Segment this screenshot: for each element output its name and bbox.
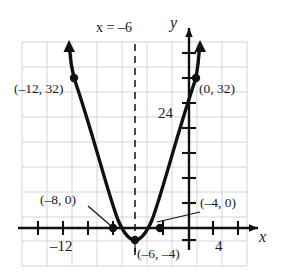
x-axis-label: x [259, 228, 266, 246]
x-tick-label-minus12: –12 [50, 238, 73, 255]
x-axis-arrow-icon [249, 224, 258, 231]
y-axis-arrow-icon [185, 28, 192, 37]
point-label-vertex: (–6, –4) [137, 246, 180, 262]
coordinate-plane-svg [0, 0, 282, 275]
x-tick-label-4: 4 [215, 238, 223, 255]
point-vertex [131, 236, 139, 244]
point-label-minus12-32: (–12, 32) [14, 81, 64, 97]
y-axis-label: y [170, 14, 177, 32]
graph-figure: x = –6 y x (–12, 32) (0, 32) (–8, 0) (–4… [0, 0, 282, 275]
point-minus4-0 [156, 224, 164, 232]
point-minus8-0 [109, 224, 117, 232]
point-label-minus8-0: (–8, 0) [40, 192, 76, 208]
point-label-minus4-0: (–4, 0) [200, 195, 236, 211]
y-tick-label-24: 24 [158, 105, 173, 122]
point-label-0-32: (0, 32) [199, 81, 235, 97]
leader-minus8-0 [88, 206, 110, 225]
point-minus12-32 [70, 74, 78, 82]
axis-of-symmetry-label: x = –6 [96, 20, 132, 36]
